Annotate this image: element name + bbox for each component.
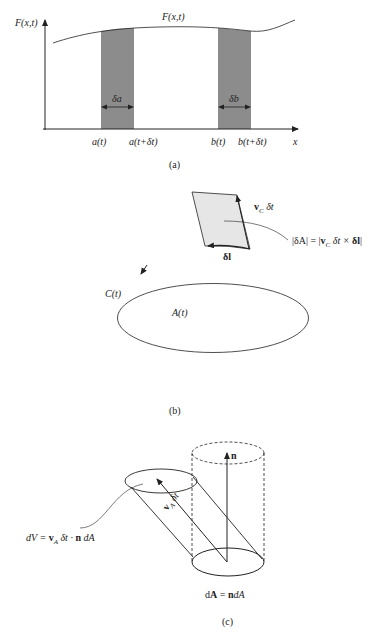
velocity-label-b: vC δt xyxy=(254,202,274,215)
delta-b-label: δb xyxy=(229,94,239,104)
base-ellipse xyxy=(192,548,264,576)
delta-a-label: δa xyxy=(112,94,122,104)
function-curve xyxy=(53,20,295,43)
delta-l-label: δl xyxy=(223,252,231,262)
curve-label: F(x,t) xyxy=(162,12,185,22)
volume-leader-line xyxy=(80,484,143,528)
tick-b-t-dt: b(t+δt) xyxy=(238,137,267,147)
area-formula: |δA| = |vC δt × δl| xyxy=(292,236,362,249)
y-axis-label: F(x,t) xyxy=(15,18,38,28)
normal-label: n xyxy=(231,451,237,461)
strip-a xyxy=(101,28,134,129)
caption-a: (a) xyxy=(169,160,180,170)
tick-a-t: a(t) xyxy=(92,137,106,147)
strip-b xyxy=(218,28,251,129)
contour-label: C(t) xyxy=(105,289,121,299)
contour-c xyxy=(118,284,309,353)
contour-direction-arrow xyxy=(141,265,147,274)
area-label: A(t) xyxy=(172,308,188,318)
caption-c: (c) xyxy=(222,617,233,627)
x-axis-label: x xyxy=(293,137,297,147)
caption-b: (b) xyxy=(169,406,181,416)
dashed-top-ellipse xyxy=(192,442,264,464)
tick-a-t-dt: a(t+δt) xyxy=(129,137,158,147)
panel-a-graph xyxy=(43,20,298,130)
area-vector-formula: dA = ndA xyxy=(205,590,245,600)
panel-b-graph xyxy=(118,192,309,353)
tick-b-t: b(t) xyxy=(211,137,225,147)
slanted-top-ellipse xyxy=(125,469,197,493)
swept-area xyxy=(192,192,250,249)
volume-formula: dV = vA δt · n dA xyxy=(26,533,95,546)
